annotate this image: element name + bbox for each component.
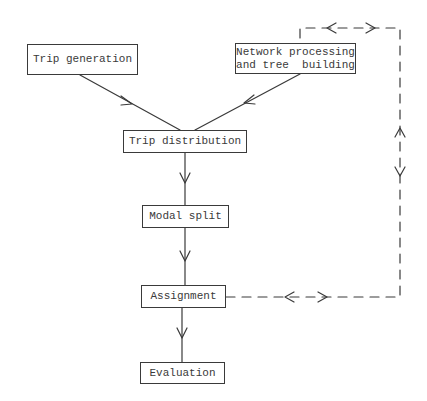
node-trip-distribution: Trip distribution <box>123 130 247 153</box>
node-label-line1: Network processing <box>236 46 355 59</box>
node-label-line2: and tree building <box>236 59 355 72</box>
node-modal-split: Modal split <box>142 205 229 228</box>
node-assignment: Assignment <box>141 285 226 308</box>
node-network-processing: Network processing and tree building <box>235 43 356 74</box>
node-label: Modal split <box>149 210 222 223</box>
node-label: Evaluation <box>149 367 215 380</box>
node-trip-generation: Trip generation <box>27 44 138 75</box>
node-label: Trip distribution <box>129 135 241 148</box>
node-label: Assignment <box>150 290 216 303</box>
arrowhead-icon <box>121 96 132 105</box>
node-label: Trip generation <box>33 53 132 66</box>
node-evaluation: Evaluation <box>140 362 225 384</box>
edge-network-to-distribution <box>195 74 300 130</box>
